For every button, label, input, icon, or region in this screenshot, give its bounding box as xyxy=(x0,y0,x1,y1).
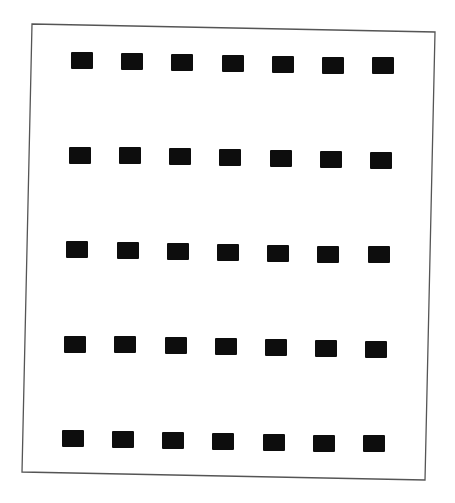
grid-square xyxy=(219,149,241,166)
grid-figure xyxy=(0,0,455,503)
grid-square xyxy=(317,246,339,263)
grid-square xyxy=(215,338,237,355)
grid-square xyxy=(71,52,93,69)
grid-square xyxy=(272,56,294,73)
grid-square xyxy=(320,151,342,168)
grid-square xyxy=(69,147,91,164)
grid-square xyxy=(267,245,289,262)
grid-square xyxy=(167,243,189,260)
grid-square xyxy=(162,432,184,449)
grid-square xyxy=(62,430,84,447)
grid-square xyxy=(322,57,344,74)
grid-square xyxy=(169,148,191,165)
grid-square xyxy=(112,431,134,448)
grid-square xyxy=(372,57,394,74)
grid-square xyxy=(171,54,193,71)
grid-square xyxy=(270,150,292,167)
grid-square xyxy=(265,339,287,356)
grid-square xyxy=(313,435,335,452)
grid-square xyxy=(119,147,141,164)
grid-square xyxy=(315,340,337,357)
grid-square xyxy=(64,336,86,353)
grid-square xyxy=(114,336,136,353)
grid-square xyxy=(217,244,239,261)
grid-square xyxy=(363,435,385,452)
grid-square xyxy=(222,55,244,72)
grid-square xyxy=(263,434,285,451)
grid-square xyxy=(121,53,143,70)
grid-square xyxy=(368,246,390,263)
grid-square xyxy=(117,242,139,259)
grid-square xyxy=(370,152,392,169)
grid-square xyxy=(165,337,187,354)
grid-square xyxy=(212,433,234,450)
grid-square xyxy=(365,341,387,358)
grid-square xyxy=(66,241,88,258)
